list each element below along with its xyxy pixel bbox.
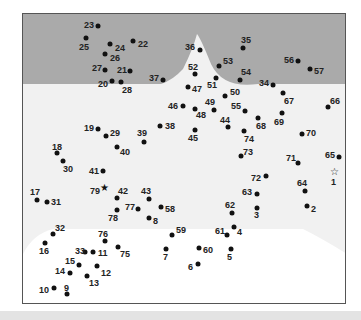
dot-number-label: 73 <box>243 148 253 157</box>
dot-number-label: 3 <box>254 211 259 220</box>
dot-number-label: 15 <box>65 257 75 266</box>
puzzle-dot[interactable] <box>147 197 152 202</box>
dot-number-label: 20 <box>98 80 108 89</box>
puzzle-dot[interactable] <box>217 64 222 69</box>
puzzle-dot[interactable] <box>197 246 202 251</box>
puzzle-dot[interactable] <box>264 174 269 179</box>
dot-number-label: 30 <box>63 165 73 174</box>
puzzle-dot[interactable] <box>128 69 133 74</box>
dot-number-label: 28 <box>122 86 132 95</box>
puzzle-dot[interactable] <box>68 271 73 276</box>
puzzle-dot[interactable] <box>196 262 201 267</box>
puzzle-dot[interactable] <box>108 42 113 47</box>
puzzle-dot[interactable] <box>271 83 276 88</box>
dot-number-label: 61 <box>215 227 225 236</box>
dot-number-label: 76 <box>98 230 108 239</box>
dot-number-label: 39 <box>137 129 147 138</box>
puzzle-dot[interactable] <box>296 161 301 166</box>
puzzle-dot[interactable] <box>242 129 247 134</box>
puzzle-dot[interactable] <box>305 204 310 209</box>
dot-number-label: 11 <box>98 249 108 258</box>
puzzle-dot[interactable] <box>115 196 120 201</box>
puzzle-dot[interactable] <box>181 104 186 109</box>
dot-number-label: 78 <box>108 214 118 223</box>
puzzle-dot[interactable] <box>147 216 152 221</box>
puzzle-dot[interactable] <box>103 52 108 57</box>
end-star-icon[interactable]: ★ <box>100 183 109 193</box>
puzzle-dot[interactable] <box>243 109 248 114</box>
puzzle-dot[interactable] <box>142 140 147 145</box>
puzzle-dot[interactable] <box>45 200 50 205</box>
puzzle-dot[interactable] <box>61 159 66 164</box>
puzzle-dot[interactable] <box>300 132 305 137</box>
dot-number-label: 51 <box>207 81 217 90</box>
puzzle-dot[interactable] <box>280 111 285 116</box>
puzzle-dot[interactable] <box>229 247 234 252</box>
dot-number-label: 12 <box>101 269 111 278</box>
dot-number-label: 75 <box>120 250 130 259</box>
dot-number-label: 38 <box>165 122 175 131</box>
dot-number-label: 1 <box>331 178 336 187</box>
puzzle-dot[interactable] <box>225 233 230 238</box>
puzzle-dot[interactable] <box>158 124 163 129</box>
puzzle-dot[interactable] <box>164 247 169 252</box>
puzzle-dot[interactable] <box>303 189 308 194</box>
puzzle-dot[interactable] <box>232 225 237 230</box>
dot-number-label: 34 <box>259 79 269 88</box>
puzzle-dot[interactable] <box>96 24 101 29</box>
dot-number-label: 77 <box>125 203 135 212</box>
start-star-icon[interactable]: ☆ <box>330 167 339 177</box>
puzzle-dot[interactable] <box>223 94 228 99</box>
puzzle-dot[interactable] <box>193 72 198 77</box>
puzzle-dot[interactable] <box>212 108 217 113</box>
dot-number-label: 44 <box>220 116 230 125</box>
dot-number-label: 9 <box>64 284 69 293</box>
dot-number-label: 2 <box>311 205 316 214</box>
puzzle-dot[interactable] <box>103 68 108 73</box>
dot-number-label: 25 <box>79 43 89 52</box>
puzzle-dot[interactable] <box>101 169 106 174</box>
dot-number-label: 48 <box>196 111 206 120</box>
puzzle-dot[interactable] <box>241 46 246 51</box>
puzzle-dot[interactable] <box>238 78 243 83</box>
puzzle-dot[interactable] <box>119 80 124 85</box>
puzzle-dot[interactable] <box>159 205 164 210</box>
puzzle-dot[interactable] <box>77 263 82 268</box>
dot-number-label: 49 <box>205 98 215 107</box>
puzzle-dot[interactable] <box>226 125 231 130</box>
dot-number-label: 72 <box>251 174 261 183</box>
puzzle-dot[interactable] <box>230 211 235 216</box>
puzzle-dot[interactable] <box>161 78 166 83</box>
dot-number-label: 56 <box>284 56 294 65</box>
puzzle-dot[interactable] <box>52 286 57 291</box>
puzzle-dot[interactable] <box>43 241 48 246</box>
puzzle-dot[interactable] <box>103 239 108 244</box>
dot-number-label: 16 <box>39 247 49 256</box>
dot-number-label: 65 <box>325 151 335 160</box>
puzzle-dot[interactable] <box>186 85 191 90</box>
puzzle-dot[interactable] <box>337 155 342 160</box>
puzzle-dot[interactable] <box>296 59 301 64</box>
puzzle-dot[interactable] <box>110 79 115 84</box>
puzzle-dot[interactable] <box>255 192 260 197</box>
puzzle-dot[interactable] <box>281 91 286 96</box>
puzzle-dot[interactable] <box>95 264 100 269</box>
puzzle-dot[interactable] <box>104 134 109 139</box>
puzzle-dot[interactable] <box>131 39 136 44</box>
puzzle-dot[interactable] <box>198 48 203 53</box>
puzzle-dot[interactable] <box>115 208 120 213</box>
puzzle-dot[interactable] <box>91 250 96 255</box>
puzzle-dot[interactable] <box>35 198 40 203</box>
puzzle-dot[interactable] <box>84 36 89 41</box>
puzzle-dot[interactable] <box>96 127 101 132</box>
puzzle-dot[interactable] <box>115 145 120 150</box>
puzzle-dot[interactable] <box>256 116 261 121</box>
puzzle-dot[interactable] <box>136 207 141 212</box>
puzzle-dot[interactable] <box>170 233 175 238</box>
puzzle-dot[interactable] <box>193 128 198 133</box>
puzzle-dot[interactable] <box>308 67 313 72</box>
dot-number-label: 47 <box>192 85 202 94</box>
dot-number-label: 37 <box>149 74 159 83</box>
dot-number-label: 63 <box>242 188 252 197</box>
dot-number-label: 17 <box>30 188 40 197</box>
